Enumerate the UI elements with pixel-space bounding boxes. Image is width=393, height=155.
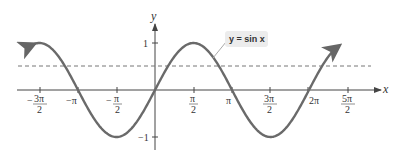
svg-text:−: −	[27, 95, 33, 106]
x-tick-label-3pi-over-2: 3π 2	[263, 93, 277, 115]
svg-text:2: 2	[191, 104, 196, 115]
x-tick-label-neg-pi: −π	[66, 95, 77, 106]
sine-graph: x y 1 −1 − 3π 2 −π − π	[0, 0, 393, 155]
svg-text:π: π	[190, 93, 195, 104]
svg-text:2: 2	[267, 104, 272, 115]
svg-text:3π: 3π	[34, 93, 44, 104]
svg-text:π: π	[114, 93, 119, 104]
svg-text:−: −	[106, 95, 112, 106]
x-tick-label-5pi-over-2: 5π 2	[341, 93, 355, 115]
y-tick-label-1: 1	[143, 38, 148, 49]
y-axis-label: y	[150, 9, 157, 23]
x-tick-label-neg-3pi-over-2: − 3π 2	[27, 93, 47, 115]
svg-text:3π: 3π	[264, 93, 274, 104]
x-tick-label-neg-pi-over-2: − π 2	[106, 93, 122, 115]
x-tick-label-pi-over-2: π 2	[189, 93, 198, 115]
svg-text:2: 2	[37, 104, 42, 115]
x-axis-label: x	[382, 82, 389, 96]
callout-label: y = sin x	[229, 34, 265, 44]
x-tick-label-pi: π	[226, 95, 231, 106]
svg-text:2: 2	[115, 104, 120, 115]
svg-text:5π: 5π	[342, 93, 352, 104]
curve-callout: y = sin x	[213, 31, 268, 58]
svg-text:2: 2	[345, 104, 350, 115]
y-tick-label-neg1: −1	[138, 132, 149, 143]
x-tick-label-2pi: 2π	[309, 95, 319, 106]
